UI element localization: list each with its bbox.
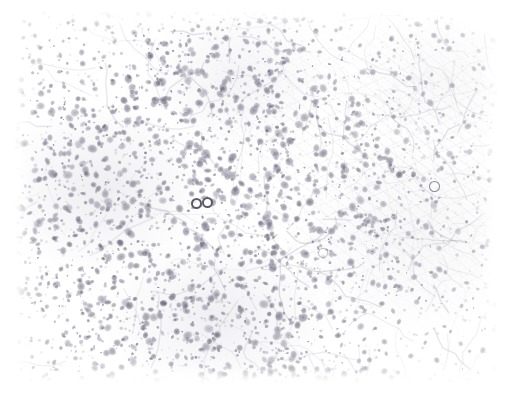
microscopy-field xyxy=(14,10,498,383)
cell-nuclei-layer xyxy=(14,10,498,383)
marked-cell-3 xyxy=(429,181,440,192)
micrograph-figure xyxy=(0,0,511,400)
marked-cell-4 xyxy=(318,248,328,258)
marked-cell-2 xyxy=(202,197,213,208)
marked-cell-1 xyxy=(191,198,202,209)
